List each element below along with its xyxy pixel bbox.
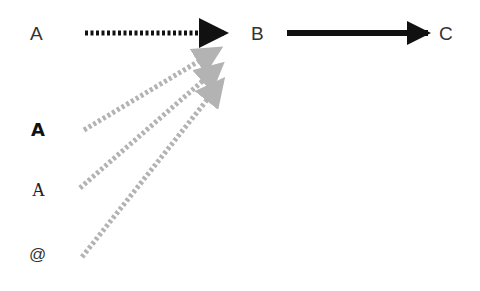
edge-bold-a-to-b [84, 49, 219, 130]
node-b: B [251, 24, 264, 43]
node-c: C [439, 24, 453, 43]
node-a-serif: A [32, 181, 45, 199]
diagram-canvas [0, 0, 480, 291]
node-a-bold: A [31, 121, 45, 139]
node-at-symbol: @ [29, 246, 46, 263]
node-a-top: A [30, 24, 43, 43]
